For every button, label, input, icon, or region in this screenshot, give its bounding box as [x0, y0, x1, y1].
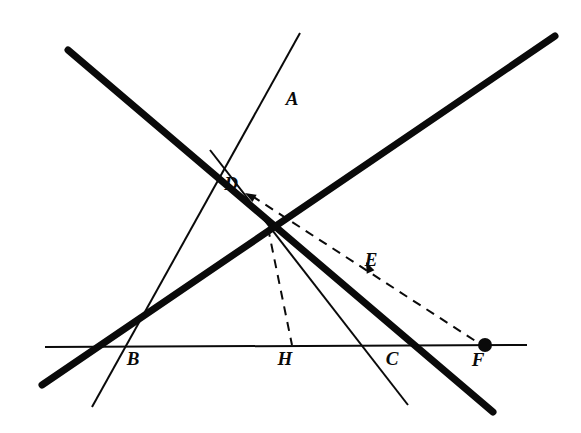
point-label-a: A [285, 88, 299, 109]
point-label-d: D [223, 173, 238, 194]
point-label-e: E [364, 249, 378, 270]
point-label-f: F [471, 349, 485, 370]
figure-canvas: ABCDEFH [0, 0, 581, 433]
point-label-b: B [126, 348, 140, 369]
point-label-c: C [386, 348, 399, 369]
geometry-figure: ABCDEFH [0, 0, 581, 433]
point-label-h: H [277, 348, 294, 369]
